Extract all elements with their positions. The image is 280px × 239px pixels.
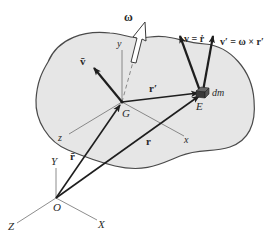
v-label: v = ṙ <box>184 33 205 44</box>
v-bar-label: v̄ <box>80 55 86 67</box>
inertial-y-label: Y <box>51 155 59 167</box>
body-z-label: z <box>57 132 62 143</box>
inertial-z-axis <box>17 198 56 223</box>
inertial-x-label: X <box>97 218 106 230</box>
r-prime-label: r′ <box>149 82 157 94</box>
omega-label: ω <box>124 10 133 24</box>
rigid-body-shape <box>36 32 254 168</box>
r-label: r <box>146 135 151 147</box>
rigid-body-diagram: ω y v̄ v = ṙ v′ = ω × r′ r′ G E dm z x r… <box>0 0 280 239</box>
r-bar-label: r̄ <box>70 150 75 162</box>
body-x-label: x <box>183 134 189 145</box>
point-g <box>120 100 123 103</box>
v-prime-label: v′ = ω × r′ <box>220 36 264 47</box>
point-o-label: O <box>53 201 61 213</box>
dm-label: dm <box>212 87 224 98</box>
body-y-label: y <box>116 38 122 49</box>
point-e-label: E <box>195 100 203 112</box>
inertial-z-label: Z <box>8 220 15 232</box>
inertial-x-axis <box>56 198 97 220</box>
point-g-label: G <box>122 107 130 119</box>
